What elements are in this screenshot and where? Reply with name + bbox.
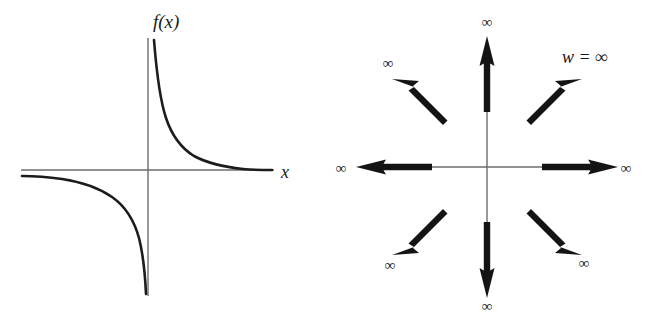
- infinity-label-southeast: ∞: [579, 255, 590, 271]
- infinity-label-southwest: ∞: [385, 257, 396, 273]
- arrow-southwest: [392, 209, 448, 255]
- curve-positive-branch: [154, 40, 272, 170]
- curve-negative-branch: [22, 176, 146, 294]
- arrow-west: [356, 160, 432, 175]
- infinity-label-south: ∞: [482, 298, 493, 314]
- arrow-north: [480, 36, 495, 112]
- point-at-infinity-diagram: ∞ ∞ ∞ ∞ ∞ ∞ ∞ w = ∞: [320, 0, 646, 328]
- reciprocal-function-graph: f(x) x: [0, 0, 320, 328]
- y-axis-label: f(x): [153, 11, 179, 33]
- w-equals-infinity-annotation: w = ∞: [562, 47, 608, 67]
- infinity-label-east: ∞: [621, 160, 632, 176]
- arrow-east: [542, 160, 618, 175]
- arrow-northeast: [527, 79, 583, 125]
- infinity-label-north: ∞: [482, 14, 493, 30]
- infinity-label-northwest: ∞: [383, 55, 394, 71]
- x-axis-label: x: [280, 162, 289, 182]
- arrow-southeast: [527, 209, 583, 255]
- arrow-south: [480, 222, 495, 298]
- infinity-label-west: ∞: [336, 160, 347, 176]
- figure-canvas: f(x) x: [0, 0, 646, 328]
- arrow-northwest: [392, 79, 448, 125]
